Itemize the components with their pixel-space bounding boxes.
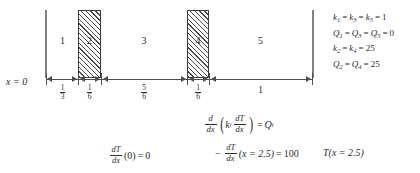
boundary-condition-left: dT dx (0) = 0 (108, 143, 150, 165)
source-symbol: Q (265, 119, 272, 130)
dimension-line-region-3 (102, 79, 187, 80)
gradient-numerator: dT (224, 143, 237, 153)
fraction-one-sixth-a: 1 6 (87, 84, 93, 101)
parameter-legend: k1=k3=k5=1 Q1=Q3=Q5=0 k2=k4=25 Q2=Q4=25 (333, 11, 394, 73)
bc-right-value: 100 (284, 148, 299, 159)
bc-left-value: 0 (145, 150, 150, 161)
dimension-tick-5 (312, 73, 313, 85)
dimension-label-region-3: 5 6 (101, 84, 187, 101)
figure-root: 1 2 3 4 5 1 3 1 6 5 6 (0, 0, 420, 173)
bc-right-argument: (x = 2.5) (239, 148, 274, 159)
arrow-left-region-5 (211, 76, 216, 82)
bc-right-gradient-fraction: dT dx (224, 143, 237, 163)
equals-sign: = (276, 148, 282, 159)
legend-line-q-odd: Q1=Q3=Q5=0 (333, 27, 394, 43)
source-subscript: i (272, 121, 274, 128)
arrow-left-region-4 (189, 76, 194, 82)
equals-sign: = (138, 150, 144, 161)
fraction-numerator: 5 (141, 84, 147, 92)
region-label-1: 1 (47, 35, 78, 47)
dimension-value-whole: 1 (258, 85, 263, 95)
arrow-right-region-4 (203, 76, 208, 82)
arrow-left-region-3 (103, 76, 108, 82)
boundary-condition-right: − dT dx (x = 2.5) = 100 (215, 143, 299, 163)
dimension-label-region-5: 1 (209, 86, 312, 95)
fraction-one-third: 1 3 (60, 84, 66, 101)
fraction-numerator: 1 (60, 84, 66, 92)
fraction-numerator: 1 (195, 84, 201, 92)
temperature-query: T (x = 2.5) (323, 147, 364, 158)
minus-sign: − (215, 148, 221, 159)
gradient-denominator: dx (225, 153, 237, 164)
region-label-4: 4 (187, 35, 209, 47)
arrow-left-region-2 (80, 76, 85, 82)
dimension-label-region-4: 1 6 (187, 84, 209, 101)
bc-left-gradient-fraction: dT dx (110, 145, 123, 165)
legend-line-k-odd: k1=k3=k5=1 (333, 11, 394, 27)
arrow-right-region-3 (181, 76, 186, 82)
bc-left-argument: (0) (124, 150, 136, 161)
operator-denominator: dx (205, 124, 217, 135)
derivative-operator-fraction: d dx (205, 114, 217, 134)
gradient-numerator: dT (110, 145, 123, 155)
gradient-denominator: dx (234, 124, 246, 135)
gradient-denominator: dx (110, 155, 122, 166)
right-paren: ) (249, 116, 253, 132)
region-label-3: 3 (101, 35, 187, 47)
fraction-denominator: 6 (141, 92, 147, 101)
legend-line-k-even: k2=k4=25 (333, 42, 394, 58)
governing-equation: d dx ( ki dT dx ) = Qi (203, 112, 274, 134)
fraction-denominator: 6 (195, 92, 201, 101)
left-paren: ( (220, 116, 224, 132)
dimension-line-region-5 (210, 79, 312, 80)
fraction-one-sixth-b: 1 6 (195, 84, 201, 101)
right-boundary-line (312, 10, 314, 78)
operator-numerator: d (206, 114, 214, 124)
arrow-left-region-1 (47, 76, 52, 82)
conductivity-subscript: i (230, 121, 232, 128)
axis-origin-label: x = 0 (6, 76, 27, 87)
arrow-right-region-1 (72, 76, 77, 82)
gradient-numerator: dT (233, 114, 246, 124)
fraction-denominator: 3 (60, 92, 66, 101)
dimension-label-region-2: 1 6 (78, 84, 101, 101)
arrow-right-region-5 (306, 76, 311, 82)
fraction-denominator: 6 (87, 92, 93, 101)
temperature-argument: (x = 2.5) (329, 147, 364, 158)
temperature-gradient-fraction: dT dx (233, 114, 246, 134)
dimension-tick-4 (209, 73, 210, 85)
dimension-label-region-1: 1 3 (47, 84, 78, 101)
region-label-5: 5 (209, 35, 312, 47)
fraction-numerator: 1 (87, 84, 93, 92)
region-label-2: 2 (78, 35, 101, 47)
fraction-five-sixths: 5 6 (141, 84, 147, 101)
legend-line-q-even: Q2=Q4=25 (333, 58, 394, 74)
arrow-right-region-2 (95, 76, 100, 82)
equals-sign: = (257, 119, 263, 130)
